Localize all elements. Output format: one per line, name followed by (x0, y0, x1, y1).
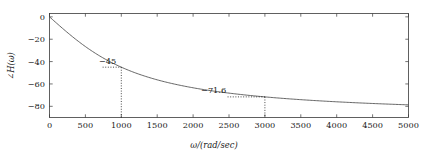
x-tick-label: 1000 (111, 120, 132, 130)
y-axis-title: ∠H(ω) (6, 52, 16, 80)
x-tick-label: 3500 (290, 120, 311, 130)
phase-response-figure: 0500100015002000250030003500400045005000… (0, 0, 423, 155)
y-tick-label: −60 (28, 79, 45, 89)
x-axis-tick-labels: 0500100015002000250030003500400045005000 (47, 120, 419, 130)
y-tick-label: −40 (28, 57, 45, 67)
x-tick-label: 2000 (183, 120, 204, 130)
x-axis-title: ω/(rad/sec) (190, 140, 237, 150)
x-tick-label: 4500 (362, 120, 383, 130)
y-tick-label: −80 (28, 101, 45, 111)
annotation-leaders (103, 67, 265, 117)
annotation-label: −71.6 (201, 85, 226, 95)
x-tick-label: 0 (47, 120, 52, 130)
y-axis-tick-labels: 0−20−40−60−80 (28, 12, 45, 111)
y-tick-label: 0 (40, 12, 45, 22)
x-tick-label: 4000 (326, 120, 347, 130)
x-tick-label: 3000 (254, 120, 275, 130)
plot-canvas: 0500100015002000250030003500400045005000… (0, 0, 423, 155)
y-tick-label: −20 (28, 34, 45, 44)
x-tick-label: 500 (78, 120, 94, 130)
x-tick-label: 2500 (219, 120, 240, 130)
annotation-label: −45 (99, 56, 116, 66)
x-tick-label: 1500 (147, 120, 168, 130)
x-tick-label: 5000 (398, 120, 419, 130)
annotation-labels: −45−71.6 (99, 56, 226, 95)
